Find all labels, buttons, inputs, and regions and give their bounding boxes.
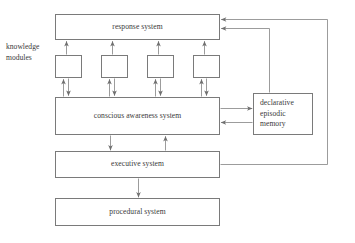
knowledge-modules-label: knowledge modules	[6, 42, 39, 64]
declarative-episodic-memory-label: declarative episodic memory	[260, 98, 312, 129]
declarative-episodic-memory-label-line-2: episodic	[260, 109, 286, 118]
knowledge-module-2-box	[101, 55, 128, 78]
executive-system-box: executive system	[55, 151, 220, 178]
cognitive-architecture-diagram: response system knowledge modules consci…	[0, 0, 355, 243]
procedural-system-label: procedural system	[109, 207, 165, 217]
conscious-awareness-system-label: conscious awareness system	[94, 111, 181, 121]
knowledge-modules-label-line-2: modules	[6, 53, 39, 64]
declarative-episodic-memory-box: declarative episodic memory	[253, 93, 313, 135]
response-system-label: response system	[112, 22, 162, 32]
executive-system-label: executive system	[111, 159, 164, 169]
connector-declarative-memory-to-response	[221, 29, 269, 93]
declarative-episodic-memory-label-line-3: memory	[260, 119, 286, 128]
knowledge-modules-label-line-1: knowledge	[6, 42, 39, 53]
response-system-box: response system	[55, 14, 220, 40]
procedural-system-box: procedural system	[55, 198, 220, 226]
knowledge-module-1-box	[55, 55, 82, 78]
connector-executive-to-response	[221, 20, 328, 165]
knowledge-module-4-box	[193, 55, 220, 78]
knowledge-module-3-box	[147, 55, 174, 78]
conscious-awareness-system-box: conscious awareness system	[55, 97, 220, 135]
declarative-episodic-memory-label-line-1: declarative	[260, 98, 294, 107]
